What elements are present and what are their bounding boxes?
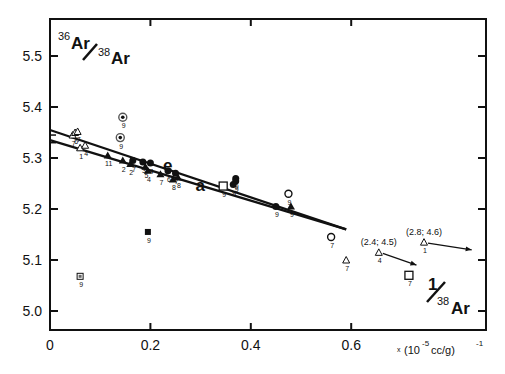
regression-lines: ea xyxy=(50,130,346,229)
y-tick-label: 5.1 xyxy=(23,252,43,268)
argon-isotope-chart: 00.20.40.6 5.05.15.25.35.45.5 ea 1122547… xyxy=(0,0,505,374)
x-title-base: Ar xyxy=(451,299,470,318)
point-square-open: 9 xyxy=(219,182,227,198)
x-tick-label: 0.6 xyxy=(341,337,361,353)
svg-text:9: 9 xyxy=(79,281,83,288)
coordinate-annotation: (2.4; 4.5) xyxy=(361,237,397,247)
y-tick-label: 5.2 xyxy=(23,201,43,217)
svg-text:4: 4 xyxy=(378,257,382,264)
point-triangle-open: 7 xyxy=(343,257,350,273)
x-axis-title: 1 38 Ar xyxy=(427,275,470,318)
line-label-a: a xyxy=(196,176,206,195)
point-circle-open: 9 xyxy=(285,190,292,206)
svg-text:7: 7 xyxy=(175,178,179,185)
y-axis-ticks: 5.05.15.25.35.45.5 xyxy=(23,48,486,319)
point-square-filled: 9 xyxy=(145,229,151,244)
coordinate-annotation: (2.8; 4.6) xyxy=(406,227,442,237)
y-title-sup1: 36 xyxy=(58,30,70,42)
point-circle-open: 7 xyxy=(328,234,335,250)
y-tick-label: 5.0 xyxy=(23,303,43,319)
svg-text:9: 9 xyxy=(122,122,126,129)
svg-text:7: 7 xyxy=(77,136,81,143)
point-square-cross: 9 xyxy=(77,273,83,288)
svg-text:7: 7 xyxy=(330,242,334,249)
arrow-icon xyxy=(410,261,416,266)
units-open: (10 xyxy=(404,344,420,356)
x-tick-label: 0.4 xyxy=(241,337,261,353)
point-circle-filled: 9 xyxy=(272,203,279,219)
point-triangle-open: 4 xyxy=(375,249,382,265)
y-title-sup2: 38 xyxy=(98,46,110,58)
svg-text:9: 9 xyxy=(287,199,291,206)
units-mid: cc/g) xyxy=(431,344,455,356)
svg-text:8: 8 xyxy=(172,184,176,191)
y-title-base2: Ar xyxy=(111,49,130,68)
svg-text:1: 1 xyxy=(79,153,83,160)
svg-text:1: 1 xyxy=(423,247,427,254)
point-circle-dot: 9 xyxy=(116,134,124,150)
svg-text:9: 9 xyxy=(232,190,236,197)
svg-text:9: 9 xyxy=(290,211,294,218)
y-tick-label: 5.4 xyxy=(23,99,43,115)
units-exp2: -1 xyxy=(476,339,484,348)
svg-text:9: 9 xyxy=(275,211,279,218)
svg-text:11: 11 xyxy=(105,160,112,167)
point-triangle-open: 1 xyxy=(420,239,427,255)
units-prefix: x xyxy=(397,346,401,353)
svg-text:4: 4 xyxy=(84,150,88,157)
y-tick-label: 5.3 xyxy=(23,150,43,166)
point-square-open: 7 xyxy=(405,271,413,287)
svg-text:3: 3 xyxy=(142,167,146,174)
x-tick-label: 0.2 xyxy=(141,337,161,353)
y-tick-label: 5.5 xyxy=(23,48,43,64)
svg-text:6: 6 xyxy=(167,176,171,183)
x-tick-label: 0 xyxy=(46,337,54,353)
y-axis-title: 36 Ar 38 Ar xyxy=(58,30,130,68)
x-axis-units: x (10 -5 cc/g) -1 xyxy=(397,339,484,356)
point-circle-dot: 9 xyxy=(119,113,127,129)
arrow-icon xyxy=(465,246,471,251)
svg-text:4: 4 xyxy=(147,176,151,183)
svg-text:2: 2 xyxy=(122,166,126,173)
svg-text:9: 9 xyxy=(147,237,151,244)
svg-text:7: 7 xyxy=(345,265,349,272)
svg-text:7: 7 xyxy=(159,179,163,186)
x-title-sup: 38 xyxy=(437,295,449,307)
units-exp: -5 xyxy=(422,339,430,348)
svg-text:9: 9 xyxy=(119,143,123,150)
point-triangle-filled: 2 xyxy=(119,157,127,173)
y-title-base1: Ar xyxy=(71,34,90,53)
svg-text:4: 4 xyxy=(149,168,153,175)
svg-text:7: 7 xyxy=(132,166,136,173)
svg-text:7: 7 xyxy=(408,280,412,287)
svg-text:9: 9 xyxy=(222,191,226,198)
